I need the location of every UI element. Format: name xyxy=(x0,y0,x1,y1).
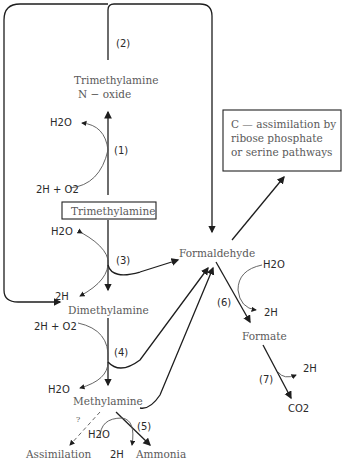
dimethylamine-label: Dimethylamine xyxy=(68,304,149,316)
step-3: (3) xyxy=(116,255,130,266)
assimilation-box-line1: C — assimilation by xyxy=(231,118,336,130)
step-7: (7) xyxy=(259,374,273,385)
ammonia-label: Ammonia xyxy=(135,448,186,460)
metabolic-pathway-diagram: Trimethylamine N − oxide Trimethylamine … xyxy=(0,0,348,463)
cofactor-curve-6 xyxy=(238,265,262,310)
methylamine-label: Methylamine xyxy=(73,395,143,407)
cofactor-curve-1-out xyxy=(82,123,108,150)
2h-3: 2H xyxy=(55,291,69,302)
tmao-label: Trimethylamine xyxy=(74,74,158,86)
cofactor-curve-4-out xyxy=(80,362,108,388)
step-4: (4) xyxy=(114,347,128,358)
assimilation-label: Assimilation xyxy=(25,448,92,460)
step-1: (1) xyxy=(114,145,128,156)
step-6: (6) xyxy=(217,297,231,308)
step-2: (2) xyxy=(116,38,130,49)
trimethylamine-label: Trimethylamine xyxy=(71,205,155,217)
formate-label: Formate xyxy=(242,330,287,342)
cofactor-curve-1-in xyxy=(70,150,108,188)
cofactor-curve-3-h2o xyxy=(82,233,108,268)
h2o-4: H2O xyxy=(48,384,70,395)
assimilation-box-line2: ribose phosphate xyxy=(231,132,323,144)
h2o-5: H2O xyxy=(88,429,110,440)
h2o-6: H2O xyxy=(263,259,285,270)
cofactor-curve-7 xyxy=(278,372,296,377)
arrow-mma-to-formaldehyde xyxy=(140,268,213,408)
2h-o2-1: 2H + O2 xyxy=(36,184,79,195)
h2o-3: H2O xyxy=(51,226,73,237)
loop-line-left xyxy=(4,4,108,302)
arrow-formaldehyde-to-formate xyxy=(216,262,250,322)
2h-7: 2H xyxy=(303,363,317,374)
arrow-formaldehyde-to-assimilation xyxy=(232,177,284,240)
2h-5: 2H xyxy=(110,449,124,460)
2h-o2-4: 2H + O2 xyxy=(34,321,77,332)
assimilation-box-line3: or serine pathways xyxy=(231,146,333,158)
cofactor-curve-3-2h xyxy=(80,260,108,296)
co2-label: CO2 xyxy=(288,403,309,414)
step-5: (5) xyxy=(137,421,151,432)
arrow-formate-to-co2 xyxy=(263,345,291,398)
tmao-label-2: N − oxide xyxy=(78,88,131,100)
question-mark: ? xyxy=(76,415,80,424)
cofactor-curve-4-in xyxy=(78,323,108,360)
formaldehyde-label: Formaldehyde xyxy=(179,247,255,259)
2h-6: 2H xyxy=(264,307,278,318)
h2o-1: H2O xyxy=(50,117,72,128)
